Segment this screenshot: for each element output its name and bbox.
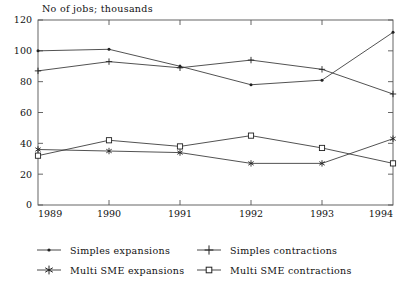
x-tick-label: 1993: [310, 208, 334, 219]
y-tick-label: 20: [20, 169, 32, 180]
y-tick-label: 0: [26, 199, 32, 210]
line-chart-plot: 020406080100120198919901991199219931994: [0, 0, 412, 240]
data-point-marker: [319, 145, 324, 150]
data-point-marker: [106, 138, 111, 143]
plot-frame: [38, 20, 393, 205]
legend-entry-multi-sme-expansions[interactable]: Multi SME expansions: [36, 260, 184, 280]
series-3: [35, 133, 395, 166]
chart-legend: Simples expansions Simples contractions: [0, 240, 412, 288]
data-point-marker: [390, 161, 395, 166]
plus-marker-icon: [196, 243, 222, 257]
legend-row: Multi SME expansions Multi SME contracti…: [0, 260, 412, 280]
legend-entry-simples-contractions[interactable]: Simples contractions: [196, 240, 337, 260]
data-point-marker: [177, 144, 182, 149]
legend-label: Multi SME contractions: [230, 265, 352, 276]
legend-entry-simples-expansions[interactable]: Simples expansions: [36, 240, 170, 260]
legend-entry-multi-sme-contractions[interactable]: Multi SME contractions: [196, 260, 352, 280]
y-tick-label: 80: [20, 76, 32, 87]
y-tick-label: 100: [14, 45, 32, 56]
series-2: [35, 136, 395, 167]
square-marker-icon: [196, 263, 222, 277]
legend-label: Multi SME expansions: [70, 265, 184, 276]
x-tick-label: 1990: [97, 208, 121, 219]
data-point-marker: [248, 133, 253, 138]
y-tick-label: 40: [20, 138, 32, 149]
dot-marker-icon: [36, 243, 62, 257]
x-tick-label: 1992: [239, 208, 263, 219]
legend-label: Simples expansions: [70, 245, 170, 256]
series-line: [38, 32, 393, 84]
series-line: [38, 136, 393, 164]
chart-container: No of jobs; thousands 020406080100120198…: [0, 0, 412, 294]
series-line: [38, 60, 393, 94]
x-tick-label: 1991: [168, 208, 192, 219]
x-tick-label: 1989: [38, 208, 62, 219]
series-1: [35, 57, 396, 97]
y-tick-label: 120: [14, 14, 32, 25]
data-point-marker: [250, 83, 253, 86]
data-point-marker: [37, 49, 40, 52]
legend-label: Simples contractions: [230, 245, 337, 256]
data-point-marker: [321, 79, 324, 82]
data-point-marker: [35, 153, 40, 158]
data-point-marker: [108, 48, 111, 51]
y-tick-label: 60: [20, 107, 32, 118]
series-0: [37, 31, 395, 86]
star-marker-icon: [36, 263, 62, 277]
x-tick-label: 1994: [369, 208, 393, 219]
legend-row: Simples expansions Simples contractions: [0, 240, 412, 260]
series-line: [38, 139, 393, 164]
data-point-marker: [392, 31, 395, 34]
